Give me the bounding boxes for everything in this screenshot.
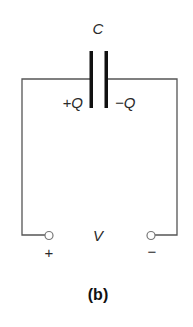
circuit-wires [22,79,177,235]
positive-terminal-sign: + [45,244,54,261]
voltage-label: V [93,227,105,244]
capacitor-label: C [93,20,104,37]
capacitor-symbol [90,51,109,108]
figure-caption: (b) [88,286,108,303]
positive-charge-label: +Q [63,94,84,111]
negative-charge-label: −Q [115,94,136,111]
capacitor-plate-negative [105,51,109,108]
capacitor-plate-positive [90,51,94,108]
positive-terminal-icon [45,232,53,240]
negative-terminal-icon [147,232,155,240]
negative-terminal-sign: − [148,243,157,260]
capacitor-circuit-diagram: C +Q −Q V + − (b) [0,0,193,327]
